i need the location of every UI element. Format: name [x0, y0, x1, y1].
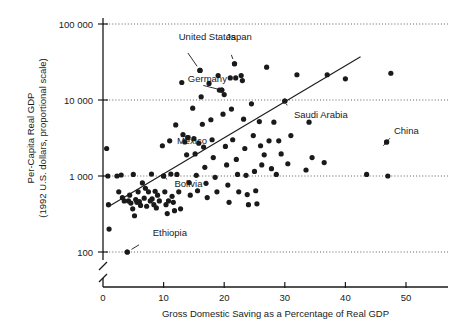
data-point — [258, 143, 263, 148]
data-point — [178, 206, 183, 211]
data-point — [236, 189, 241, 194]
data-point — [239, 73, 244, 78]
data-point-ethiopia — [125, 249, 130, 254]
data-point-japan — [232, 61, 237, 66]
y-tick-label: 100 000 — [59, 19, 93, 30]
data-point — [154, 205, 159, 210]
data-point — [213, 175, 218, 180]
data-point — [325, 72, 330, 77]
axis-break-mark — [99, 262, 107, 270]
data-point — [241, 117, 246, 122]
data-point — [257, 119, 262, 124]
data-point — [243, 173, 248, 178]
data-point — [222, 92, 227, 97]
data-point — [131, 172, 136, 177]
y-tick-label: 100 — [77, 247, 93, 258]
leader-line-ethiopia — [132, 245, 140, 250]
data-point — [190, 106, 195, 111]
data-point — [209, 137, 214, 142]
data-points-group — [104, 61, 393, 254]
y-axis-title-line1: Per-Capita Real GDP — [25, 93, 36, 184]
data-point — [136, 189, 141, 194]
annotation-labels-group: United StatesJapanGermanySaudi ArabiaChi… — [132, 31, 420, 250]
data-point — [252, 169, 257, 174]
x-tick-label: 50 — [401, 292, 412, 303]
data-point — [199, 94, 204, 99]
data-point — [262, 152, 267, 157]
x-axis-title: Gross Domestic Saving as a Percentage of… — [162, 308, 389, 319]
data-point — [174, 172, 179, 177]
data-point — [226, 200, 231, 205]
tick-marks-group — [98, 24, 406, 288]
data-point — [303, 167, 308, 172]
leader-line-germany — [203, 85, 217, 88]
data-point — [253, 188, 258, 193]
data-point — [132, 213, 137, 218]
leader-line-japan — [231, 55, 232, 59]
data-point — [149, 196, 154, 201]
y-tick-label: 10 000 — [64, 95, 93, 106]
data-point — [166, 198, 171, 203]
data-point — [245, 192, 250, 197]
data-point — [246, 202, 251, 207]
data-point — [224, 162, 229, 167]
gridlines-group — [103, 24, 448, 252]
data-point — [208, 117, 213, 122]
data-point — [205, 195, 210, 200]
data-point — [228, 75, 233, 80]
data-point — [233, 75, 238, 80]
x-tick-label: 20 — [219, 292, 230, 303]
data-point — [144, 204, 149, 209]
data-point — [264, 65, 269, 70]
data-point — [225, 182, 230, 187]
data-point — [294, 72, 299, 77]
leader-line-united-states — [188, 53, 197, 66]
data-point-saudi-arabia — [282, 98, 287, 103]
data-point — [119, 172, 124, 177]
data-point — [242, 146, 247, 151]
data-point — [249, 101, 254, 106]
data-point — [116, 189, 121, 194]
data-point — [288, 133, 293, 138]
data-point — [274, 172, 279, 177]
data-point — [142, 196, 147, 201]
y-axis-title-line2: (1992 U.S. dollars, proportional scale) — [37, 58, 48, 217]
label-ethiopia: Ethiopia — [153, 227, 188, 238]
data-point — [269, 166, 274, 171]
data-point — [309, 155, 314, 160]
data-point — [140, 180, 145, 185]
x-tick-label: 30 — [280, 292, 291, 303]
x-tick-label: 40 — [340, 292, 351, 303]
data-point — [176, 189, 181, 194]
data-point — [271, 120, 276, 125]
data-point — [235, 172, 240, 177]
chart-canvas: 1001 00010 000100 00001020304050 United … — [0, 0, 476, 325]
label-saudi-arabia: Saudi Arabia — [294, 109, 349, 120]
data-point — [251, 133, 256, 138]
data-point — [343, 76, 348, 81]
data-point — [169, 194, 174, 199]
scatter-plot-figure: 1001 00010 000100 00001020304050 United … — [0, 0, 476, 325]
data-point — [160, 143, 165, 148]
data-point — [179, 80, 184, 85]
data-point — [149, 171, 154, 176]
data-point — [146, 189, 151, 194]
data-point — [220, 112, 225, 117]
data-point — [364, 172, 369, 177]
label-mexico: Mexico — [177, 135, 207, 146]
data-point — [188, 193, 193, 198]
data-point — [171, 200, 176, 205]
data-point — [172, 208, 177, 213]
data-point — [279, 151, 284, 156]
data-point — [285, 161, 290, 166]
data-point — [195, 188, 200, 193]
data-point — [106, 202, 111, 207]
data-point-germany — [219, 87, 224, 92]
data-point — [254, 201, 259, 206]
data-point — [234, 157, 239, 162]
y-tick-label: 1 000 — [69, 171, 93, 182]
leader-line-saudi-arabia — [286, 104, 287, 106]
data-point — [276, 138, 281, 143]
data-point — [165, 211, 170, 216]
label-china: China — [394, 125, 420, 136]
